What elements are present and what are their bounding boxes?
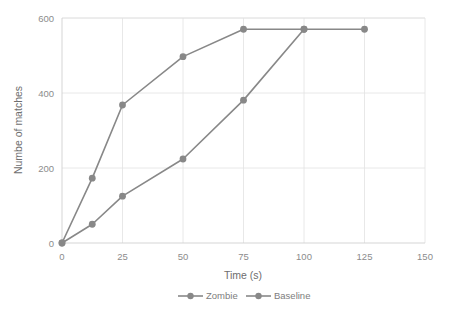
x-axis-title: Time (s): [224, 269, 262, 281]
data-point-marker: [301, 26, 308, 33]
data-point-marker: [180, 156, 187, 163]
x-tick-label: 75: [238, 251, 249, 262]
data-point-marker: [89, 175, 96, 182]
x-tick-label: 150: [417, 251, 433, 262]
data-point-marker: [240, 26, 247, 33]
x-axis-tick-labels: 0255075100125150: [59, 251, 433, 262]
chart-legend: ZombieBaseline: [178, 290, 310, 301]
chart-container: 0200400600 0255075100125150 Numbe of mat…: [0, 0, 450, 320]
data-point-marker: [89, 221, 96, 228]
line-chart: 0200400600 0255075100125150 Numbe of mat…: [0, 0, 450, 320]
legend-label: Baseline: [274, 290, 310, 301]
legend-item-baseline[interactable]: Baseline: [246, 290, 310, 301]
y-axis-title: Numbe of matches: [12, 86, 24, 174]
x-tick-label: 50: [178, 251, 189, 262]
y-tick-label: 400: [38, 88, 54, 99]
legend-item-zombie[interactable]: Zombie: [178, 290, 238, 301]
data-point-marker: [119, 102, 126, 109]
data-point-marker: [180, 53, 187, 60]
x-tick-label: 125: [357, 251, 373, 262]
y-tick-label: 200: [38, 163, 54, 174]
x-tick-label: 100: [296, 251, 312, 262]
data-point-marker: [361, 26, 368, 33]
legend-marker-icon: [187, 293, 193, 299]
y-tick-label: 0: [49, 238, 54, 249]
legend-marker-icon: [255, 293, 261, 299]
data-point-marker: [59, 240, 66, 247]
y-tick-label: 600: [38, 13, 54, 24]
data-point-marker: [240, 97, 247, 104]
x-tick-label: 25: [117, 251, 128, 262]
y-axis-tick-labels: 0200400600: [38, 13, 54, 249]
legend-label: Zombie: [206, 290, 238, 301]
x-tick-label: 0: [59, 251, 64, 262]
data-point-marker: [119, 193, 126, 200]
